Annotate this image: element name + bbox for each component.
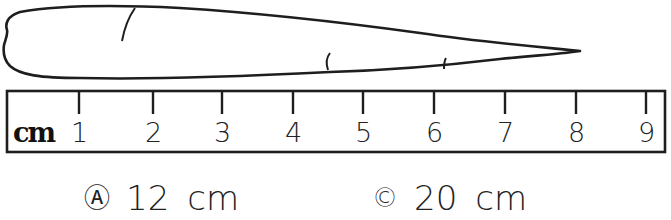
ruler-unit-label: cm: [13, 117, 54, 149]
choice-value: 20: [414, 178, 457, 218]
choice-marker-a: Ⓐ: [84, 178, 110, 218]
ruler-tick-label: 1: [71, 117, 87, 149]
ruler-tick-label: 6: [426, 117, 442, 149]
choice-marker-c: ©: [372, 178, 398, 218]
ruler-tick-label: 5: [355, 117, 371, 149]
choice-unit: cm: [187, 178, 239, 218]
choice-a[interactable]: Ⓐ12cm: [84, 178, 239, 218]
choice-c[interactable]: ©20cm: [372, 178, 527, 218]
ruler: [7, 91, 665, 152]
ruler-tick-label: 9: [638, 117, 654, 149]
ruler-tick-label: 2: [145, 117, 161, 149]
carrot-measurement-figure: cm 1 2 3 4 5 6 7 8 9: [0, 0, 671, 160]
choice-unit: cm: [475, 178, 527, 218]
ruler-tick-label: 4: [285, 117, 301, 149]
choice-value: 12: [126, 178, 169, 218]
ruler-tick-label: 7: [497, 117, 513, 149]
ruler-tick-label: 3: [214, 117, 230, 149]
ruler-tick-label: 8: [568, 117, 584, 149]
ruler-ticks: [79, 91, 646, 114]
